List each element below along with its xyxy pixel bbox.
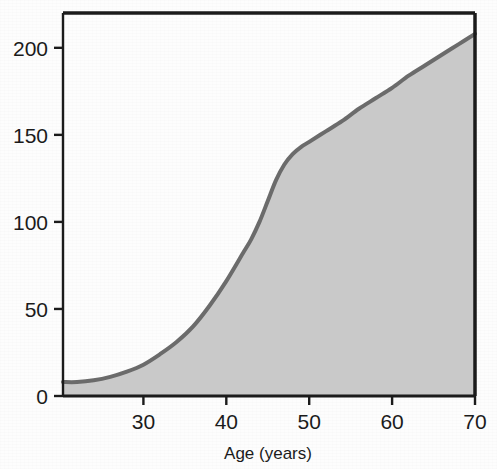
x-tick-label-60: 60 [380, 410, 403, 433]
y-tick-label-100: 100 [13, 211, 48, 234]
area-fill [63, 34, 475, 396]
y-axis-tick-labels: 050100150200 [13, 37, 48, 408]
y-tick-label-150: 150 [13, 124, 48, 147]
x-axis-title: Age (years) [224, 444, 312, 463]
y-tick-label-0: 0 [36, 385, 48, 408]
x-tick-label-70: 70 [463, 410, 486, 433]
x-tick-label-40: 40 [215, 410, 238, 433]
chart-figure: 050100150200 3040506070 Age (years) [0, 0, 497, 469]
area-chart: 050100150200 3040506070 Age (years) [0, 0, 497, 469]
x-tick-label-50: 50 [298, 410, 321, 433]
y-tick-label-50: 50 [25, 298, 48, 321]
y-tick-label-200: 200 [13, 37, 48, 60]
x-tick-label-30: 30 [132, 410, 155, 433]
x-axis-tick-labels: 3040506070 [132, 410, 487, 433]
